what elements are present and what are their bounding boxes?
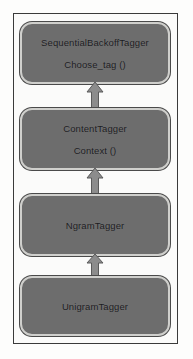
diagram-canvas: SequentialBackoffTagger Choose_tag () Co…: [14, 14, 177, 343]
arrow-up-icon: [86, 254, 104, 278]
diagram-frame: SequentialBackoffTagger Choose_tag () Co…: [13, 13, 178, 344]
node-content-tagger[interactable]: ContentTagger Context (): [20, 108, 170, 170]
node-method: Context (): [22, 145, 168, 156]
node-title: UnigramTagger: [22, 301, 168, 312]
node-unigram-tagger[interactable]: UnigramTagger: [20, 276, 170, 336]
node-title: SequentialBackoffTagger: [22, 37, 168, 48]
node-title: NgramTagger: [22, 220, 168, 231]
node-title: ContentTagger: [22, 123, 168, 134]
node-ngram-tagger[interactable]: NgramTagger: [20, 194, 170, 256]
arrow-up-icon: [86, 168, 104, 196]
node-method: Choose_tag (): [22, 59, 168, 70]
diagram-page: SequentialBackoffTagger Choose_tag () Co…: [0, 0, 193, 359]
arrow-up-icon: [86, 82, 104, 110]
node-sequential-backoff-tagger[interactable]: SequentialBackoffTagger Choose_tag (): [20, 22, 170, 84]
